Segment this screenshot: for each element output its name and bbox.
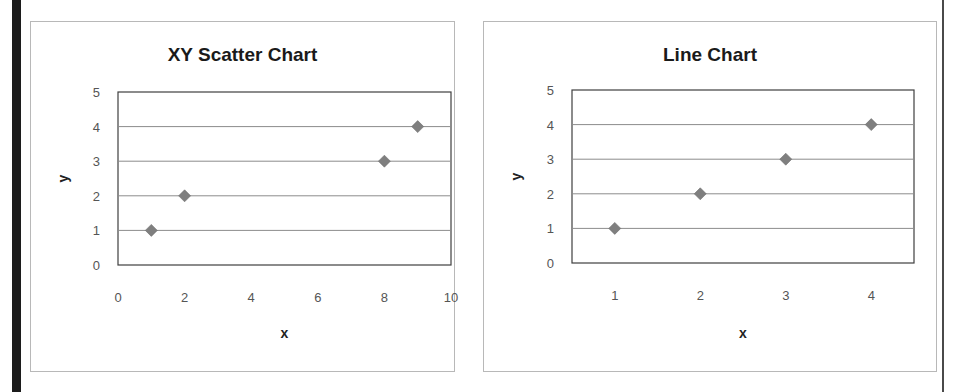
line-y-axis-title: y: [508, 172, 524, 180]
line-x-axis-title: x: [739, 325, 747, 341]
line-x-tick-label: 4: [868, 288, 875, 303]
line-y-tick-label: 1: [547, 221, 554, 236]
line-plot-area[interactable]: [572, 90, 914, 263]
line-y-tick-label: 4: [547, 118, 554, 133]
line-y-tick-label: 2: [547, 187, 554, 202]
line-y-tick-label: 0: [547, 256, 554, 271]
line-y-tick-label: 3: [547, 152, 554, 167]
line-x-tick-label: 3: [782, 288, 789, 303]
line-x-tick-label: 2: [697, 288, 704, 303]
line-y-tick-label: 5: [547, 83, 554, 98]
line-x-tick-label: 1: [611, 288, 618, 303]
line-chart-plot: 012345yx1234: [0, 0, 967, 392]
